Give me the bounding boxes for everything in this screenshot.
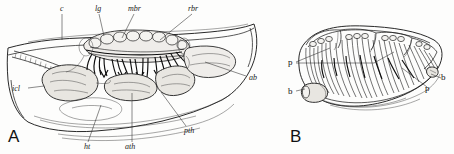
- panel-letter-a: A: [8, 127, 20, 146]
- label-ath: ath: [125, 142, 135, 151]
- tube-left: [301, 83, 327, 102]
- label-p-right: p: [425, 83, 430, 93]
- label-lg: lg: [95, 4, 101, 13]
- figure-svg: c lg mbr rbr ab icl ht ath pth A: [0, 0, 454, 154]
- label-c: c: [60, 4, 64, 13]
- label-rbr: rbr: [188, 4, 199, 13]
- panel-letter-b: B: [290, 127, 301, 146]
- label-icl: icl: [12, 84, 21, 93]
- label-b-left: b: [288, 86, 293, 96]
- label-pth: pth: [183, 126, 194, 135]
- label-b-right: b: [441, 72, 446, 82]
- figure-root: c lg mbr rbr ab icl ht ath pth A: [0, 0, 454, 154]
- label-ab: ab: [249, 73, 257, 82]
- panel-b-drawing: [299, 26, 442, 110]
- label-ht: ht: [84, 142, 91, 151]
- basket-ostia: [310, 33, 431, 49]
- label-mbr: mbr: [128, 4, 142, 13]
- label-p-left: p: [288, 57, 293, 67]
- tube-right: [427, 67, 439, 77]
